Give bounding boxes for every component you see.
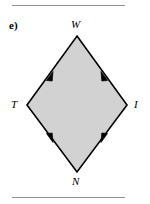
- vertex-label-W: W: [71, 19, 80, 30]
- arrowhead-N-I: [101, 133, 108, 143]
- figure-container: e) W T I N: [0, 0, 150, 204]
- vertex-label-T: T: [11, 99, 17, 110]
- vertex-label-I: I: [134, 99, 138, 110]
- rhombus-shape: [27, 36, 127, 172]
- horizontal-rule-bottom: [12, 197, 125, 198]
- vertex-label-N: N: [72, 176, 79, 187]
- edge-tick-N-I: [101, 133, 108, 143]
- rhombus-diagram: [0, 0, 150, 204]
- arrowhead-N-T: [47, 133, 54, 143]
- edge-tick-N-T: [47, 133, 54, 143]
